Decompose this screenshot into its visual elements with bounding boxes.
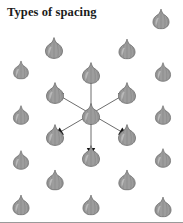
garlic-bulb-icon xyxy=(155,62,172,82)
garlic-bulb-icon xyxy=(46,124,65,146)
garlic-bulb-icon xyxy=(46,82,65,104)
garlic-bulb-icon xyxy=(155,148,172,168)
garlic-bulb-layer xyxy=(0,0,183,223)
garlic-bulb-icon xyxy=(82,195,100,216)
garlic-bulb-icon xyxy=(13,61,30,80)
garlic-bulb-icon xyxy=(118,82,137,104)
garlic-bulb-icon xyxy=(152,9,170,30)
garlic-bulb-icon xyxy=(45,37,64,59)
garlic-bulb-icon xyxy=(82,62,101,84)
garlic-bulb-icon xyxy=(13,150,30,170)
garlic-bulb-icon xyxy=(118,170,137,191)
garlic-bulb-icon xyxy=(13,105,30,125)
garlic-bulb-icon xyxy=(12,195,30,216)
garlic-bulb-icon xyxy=(81,103,101,125)
garlic-bulb-icon xyxy=(154,197,172,218)
garlic-bulb-icon xyxy=(118,39,136,60)
spacing-diagram-figure: Types of spacing xyxy=(0,0,183,223)
garlic-bulb-icon xyxy=(118,124,137,146)
garlic-bulb-icon xyxy=(46,170,65,191)
garlic-bulb-icon xyxy=(155,105,172,125)
garlic-bulb-icon xyxy=(82,145,101,167)
